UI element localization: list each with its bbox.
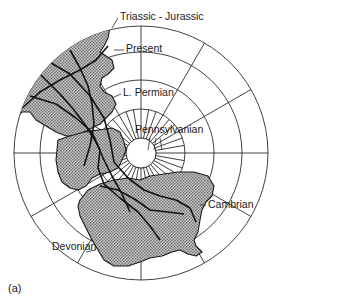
label-l-permian: L. Permian: [123, 86, 174, 98]
continents: [14, 27, 214, 266]
label-cambrian: Cambrian: [208, 198, 254, 210]
polar-projection-diagram: Triassic - Jurassic Present L. Permian P…: [0, 0, 337, 297]
label-devonian: Devonian: [52, 240, 97, 252]
panel-label: (a): [8, 282, 21, 294]
landmass-south: [78, 172, 214, 266]
label-triassic-jurassic: Triassic - Jurassic: [120, 10, 204, 22]
pole-circle: [126, 138, 156, 168]
label-pennsylvanian: Pennsylvanian: [135, 123, 203, 135]
landmass-north: [14, 27, 116, 136]
label-present: Present: [126, 42, 162, 54]
